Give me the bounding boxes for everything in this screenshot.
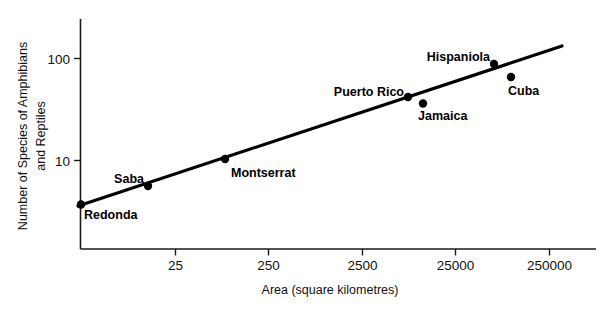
chart-canvas: 100 10 25 250 2500 25000 250000 Area (sq… bbox=[0, 0, 612, 319]
regression-trendline bbox=[78, 46, 562, 206]
x-tick-label-250000: 250000 bbox=[527, 258, 572, 273]
point-label-saba: Saba bbox=[114, 172, 145, 186]
data-point-hispaniola bbox=[490, 60, 498, 68]
y-axis-ticks bbox=[74, 59, 81, 161]
point-label-hispaniola: Hispaniola bbox=[427, 50, 491, 64]
point-label-jamaica: Jamaica bbox=[418, 109, 468, 123]
figure-caption bbox=[26, 308, 356, 318]
data-point-cuba bbox=[507, 73, 515, 81]
x-tick-label-25000: 25000 bbox=[437, 258, 475, 273]
x-tick-label-2500: 2500 bbox=[347, 258, 377, 273]
x-tick-label-250: 250 bbox=[257, 258, 280, 273]
y-axis-title-line1: Number of Species of Amphibians bbox=[16, 42, 30, 230]
data-point-jamaica bbox=[419, 99, 427, 107]
data-point-montserrat bbox=[221, 155, 229, 163]
y-tick-label-100: 100 bbox=[47, 52, 70, 67]
point-label-puerto-rico: Puerto Rico bbox=[334, 85, 405, 99]
data-point-puerto-rico bbox=[404, 93, 412, 101]
axes-group bbox=[81, 19, 597, 249]
y-axis-title-line2: and Reptiles bbox=[34, 101, 48, 171]
point-label-cuba: Cuba bbox=[508, 84, 540, 98]
species-area-chart-figure: 100 10 25 250 2500 25000 250000 Area (sq… bbox=[0, 0, 612, 319]
x-axis-title: Area (square kilometres) bbox=[262, 283, 399, 297]
data-point-saba bbox=[144, 182, 152, 190]
point-label-redonda: Redonda bbox=[84, 208, 139, 222]
point-label-montserrat: Montserrat bbox=[231, 166, 296, 180]
x-axis-ticks bbox=[176, 249, 550, 256]
x-tick-label-25: 25 bbox=[168, 258, 183, 273]
y-tick-label-10: 10 bbox=[55, 154, 70, 169]
